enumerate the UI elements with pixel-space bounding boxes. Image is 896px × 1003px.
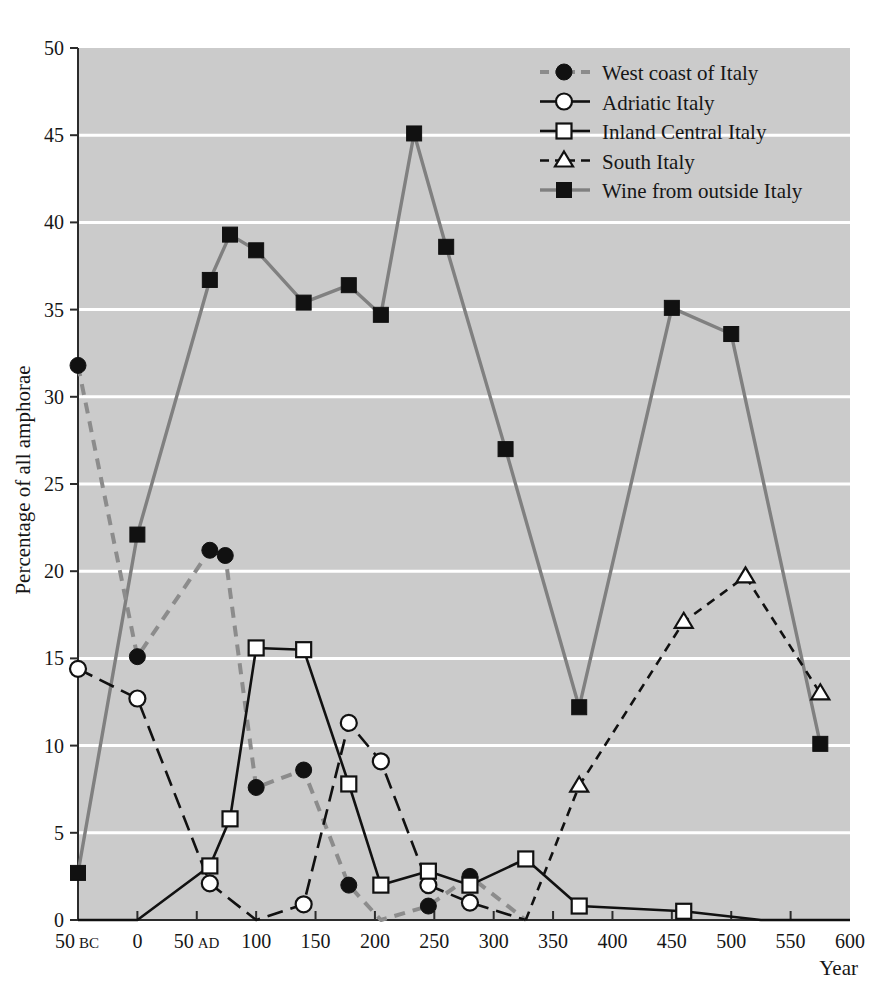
x-tick-label-value: 250 — [419, 930, 449, 952]
y-tick-label: 30 — [44, 386, 64, 408]
marker-open-square — [202, 858, 217, 873]
y-tick-label: 20 — [44, 560, 64, 582]
marker-open-square — [249, 640, 264, 655]
marker-filled-circle — [70, 357, 86, 373]
marker-filled-circle — [202, 542, 218, 558]
x-tick-label-value: 50 — [55, 930, 75, 952]
marker-filled-circle — [248, 779, 264, 795]
x-tick-label: 600 — [835, 930, 865, 952]
y-tick-label: 15 — [44, 647, 64, 669]
x-tick-label: 400 — [597, 930, 627, 952]
x-tick-label: 100 — [241, 930, 271, 952]
marker-filled-square — [373, 307, 388, 322]
marker-filled-square — [498, 442, 513, 457]
y-axis-title: Percentage of all amphorae — [11, 365, 35, 594]
x-tick-label: 150 — [301, 930, 331, 952]
marker-filled-square — [813, 736, 828, 751]
x-tick-label-value: 400 — [597, 930, 627, 952]
marker-open-square — [341, 776, 356, 791]
legend-label: Inland Central Italy — [602, 120, 767, 144]
y-tick-label: 50 — [44, 37, 64, 59]
legend-label: West coast of Italy — [602, 61, 759, 85]
marker-filled-circle — [129, 649, 145, 665]
x-tick-label-value: 350 — [538, 930, 568, 952]
y-tick-label: 35 — [44, 299, 64, 321]
marker-open-square — [676, 904, 691, 919]
marker-filled-square — [249, 243, 264, 258]
x-tick-label: 0 — [132, 930, 142, 952]
marker-open-circle — [202, 875, 218, 891]
marker-open-circle — [296, 896, 312, 912]
marker-open-square — [223, 811, 238, 826]
legend-label: Adriatic Italy — [602, 91, 715, 115]
marker-filled-circle — [420, 898, 436, 914]
marker-filled-circle — [217, 548, 233, 564]
amphorae-percentage-line-chart: 50BC050AD1001502002503003504004505005506… — [0, 0, 896, 1003]
legend-label: Wine from outside Italy — [602, 179, 803, 203]
y-tick-label: 25 — [44, 473, 64, 495]
x-tick-label-era: AD — [198, 935, 220, 951]
marker-filled-square — [557, 183, 572, 198]
x-tick-label: 550 — [776, 930, 806, 952]
y-tick-label: 40 — [44, 211, 64, 233]
marker-filled-square — [407, 126, 422, 141]
marker-open-circle — [70, 661, 86, 677]
x-tick-label-value: 150 — [301, 930, 331, 952]
marker-filled-square — [71, 865, 86, 880]
marker-filled-square — [664, 300, 679, 315]
marker-open-square — [518, 851, 533, 866]
marker-open-square — [421, 864, 436, 879]
marker-filled-square — [223, 227, 238, 242]
x-tick-label-value: 450 — [657, 930, 687, 952]
legend-label: South Italy — [602, 150, 695, 174]
marker-open-square — [373, 878, 388, 893]
y-tick-label: 5 — [54, 822, 64, 844]
y-tick-label: 45 — [44, 124, 64, 146]
marker-filled-square — [202, 272, 217, 287]
x-tick-label-value: 100 — [241, 930, 271, 952]
x-tick-label: 500 — [716, 930, 746, 952]
x-tick-label-value: 200 — [360, 930, 390, 952]
y-tick-label: 0 — [54, 909, 64, 931]
marker-open-square — [557, 124, 572, 139]
marker-filled-circle — [556, 64, 572, 80]
marker-open-square — [296, 642, 311, 657]
x-tick-label-value: 0 — [132, 930, 142, 952]
marker-open-circle — [129, 691, 145, 707]
chart-figure: 50BC050AD1001502002503003504004505005506… — [0, 0, 896, 1003]
marker-open-circle — [556, 94, 572, 110]
x-tick-label-value: 600 — [835, 930, 865, 952]
x-tick-label-value: 300 — [479, 930, 509, 952]
x-tick-label-value: 500 — [716, 930, 746, 952]
marker-filled-square — [724, 327, 739, 342]
marker-open-circle — [373, 753, 389, 769]
marker-open-square — [462, 878, 477, 893]
marker-open-circle — [462, 895, 478, 911]
x-tick-label: 450 — [657, 930, 687, 952]
marker-filled-circle — [341, 877, 357, 893]
x-tick-label-value: 550 — [776, 930, 806, 952]
marker-filled-square — [130, 527, 145, 542]
marker-filled-square — [439, 239, 454, 254]
marker-open-square — [572, 899, 587, 914]
x-tick-label-value: 50 — [174, 930, 194, 952]
marker-open-circle — [341, 715, 357, 731]
x-tick-label: 250 — [419, 930, 449, 952]
marker-filled-square — [296, 295, 311, 310]
marker-filled-square — [341, 278, 356, 293]
x-tick-label-era: BC — [79, 935, 99, 951]
x-tick-label: 300 — [479, 930, 509, 952]
x-axis-title: Year — [819, 956, 858, 980]
marker-filled-circle — [296, 762, 312, 778]
x-tick-label: 350 — [538, 930, 568, 952]
x-tick-label: 200 — [360, 930, 390, 952]
y-tick-label: 10 — [44, 735, 64, 757]
marker-filled-square — [572, 700, 587, 715]
